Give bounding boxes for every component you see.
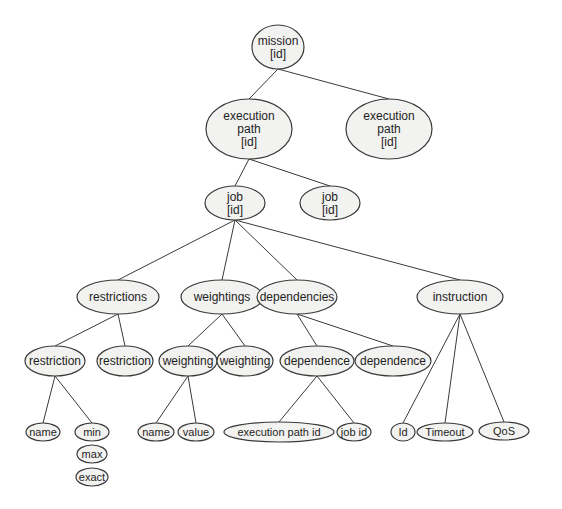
edge-execution-path-1-to-job-1 xyxy=(235,159,249,186)
node-instruction-qos: QoS xyxy=(479,422,529,440)
node-label: value xyxy=(183,426,209,438)
edge-restriction-1-to-restriction-name xyxy=(43,376,55,423)
node-label: [id] xyxy=(270,47,286,61)
node-execution-path-2: executionpath[id] xyxy=(346,99,432,159)
node-label: [id] xyxy=(227,203,243,217)
edge-mission-to-execution-path-1 xyxy=(249,69,278,99)
node-restriction-min: min xyxy=(75,423,109,441)
node-label: execution xyxy=(363,109,414,123)
node-label: name xyxy=(142,426,170,438)
node-weighting-value: value xyxy=(178,423,214,441)
node-label: weighting xyxy=(219,354,271,368)
edge-weighting-1-to-weighting-name xyxy=(156,376,188,423)
edge-execution-path-1-to-job-2 xyxy=(249,159,330,186)
node-restriction-1: restriction xyxy=(25,346,85,376)
node-label: weighting xyxy=(162,354,214,368)
node-restrictions: restrictions xyxy=(77,280,159,314)
node-restriction-exact: exact xyxy=(76,468,108,486)
node-weightings: weightings xyxy=(181,280,263,314)
edge-instruction-to-instruction-qos xyxy=(460,314,504,422)
node-label: job xyxy=(226,190,243,204)
node-label: Id xyxy=(398,426,407,438)
node-label: [id] xyxy=(241,135,257,149)
node-label: restriction xyxy=(99,354,151,368)
edge-restrictions-to-restriction-2 xyxy=(118,314,125,346)
node-label: path xyxy=(377,122,400,136)
node-label: dependence xyxy=(284,354,350,368)
edge-job-1-to-weightings xyxy=(222,220,235,280)
edge-restriction-1-to-restriction-min xyxy=(55,376,92,423)
node-instruction-timeout: Timeout xyxy=(417,423,473,441)
node-weighting-name: name xyxy=(138,423,174,441)
node-restriction-name: name xyxy=(26,423,60,441)
node-label: dependencies xyxy=(260,290,335,304)
node-execution-path-1: executionpath[id] xyxy=(206,99,292,159)
node-label: execution path id xyxy=(237,426,320,438)
node-label: [id] xyxy=(322,203,338,217)
node-label: restriction xyxy=(29,354,81,368)
node-restriction-max: max xyxy=(77,445,107,463)
edge-dependence-1-to-dependence-job-id xyxy=(317,376,354,423)
node-label: instruction xyxy=(433,290,488,304)
edge-instruction-to-instruction-timeout xyxy=(445,314,460,423)
node-label: execution xyxy=(223,109,274,123)
node-label: Timeout xyxy=(425,426,464,438)
node-label: name xyxy=(29,426,57,438)
edge-weighting-1-to-weighting-value xyxy=(188,376,196,423)
edge-weightings-to-weighting-2 xyxy=(222,314,245,346)
node-job-1: job[id] xyxy=(205,186,265,220)
edge-job-1-to-dependencies xyxy=(235,220,297,280)
node-job-2: job[id] xyxy=(300,186,360,220)
node-dependencies: dependencies xyxy=(257,280,337,314)
edge-weightings-to-weighting-1 xyxy=(188,314,222,346)
node-label: job id xyxy=(340,426,367,438)
node-restriction-2: restriction xyxy=(97,346,153,376)
node-dependence-1: dependence xyxy=(280,346,354,376)
edge-job-1-to-instruction xyxy=(235,220,460,280)
node-label: path xyxy=(237,122,260,136)
node-dependence-execution-path-id: execution path id xyxy=(224,422,334,442)
edge-dependencies-to-dependence-1 xyxy=(297,314,317,346)
node-weighting-1: weighting xyxy=(159,346,217,376)
node-weighting-2: weighting xyxy=(217,346,273,376)
node-label: [id] xyxy=(381,135,397,149)
edge-dependence-1-to-dependence-execution-path-id xyxy=(279,376,317,422)
nodes-layer: mission[id]executionpath[id]executionpat… xyxy=(25,25,529,486)
node-label: min xyxy=(83,426,101,438)
node-label: exact xyxy=(79,471,105,483)
node-label: weightings xyxy=(193,290,251,304)
node-label: QoS xyxy=(493,425,515,437)
node-instruction: instruction xyxy=(417,280,503,314)
node-label: mission xyxy=(258,34,299,48)
tree-diagram: mission[id]executionpath[id]executionpat… xyxy=(0,0,562,509)
node-label: restrictions xyxy=(89,290,147,304)
edge-restrictions-to-restriction-1 xyxy=(55,314,118,346)
edge-job-1-to-restrictions xyxy=(118,220,235,280)
node-label: job xyxy=(321,190,338,204)
node-dependence-2: dependence xyxy=(355,346,431,376)
edge-dependencies-to-dependence-2 xyxy=(297,314,393,346)
edge-mission-to-execution-path-2 xyxy=(278,69,389,99)
node-label: dependence xyxy=(360,354,426,368)
node-mission: mission[id] xyxy=(252,25,304,69)
node-dependence-job-id: job id xyxy=(337,423,371,441)
node-instruction-id: Id xyxy=(391,423,415,441)
node-label: max xyxy=(82,448,103,460)
